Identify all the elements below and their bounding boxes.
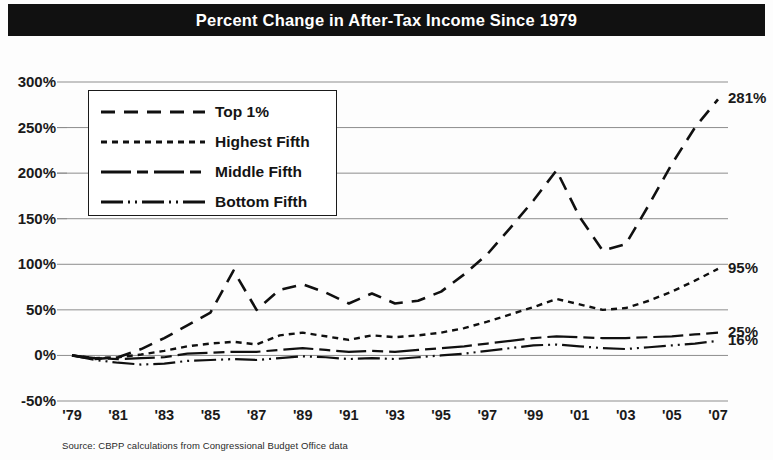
x-axis-tick-label: '79 <box>52 407 92 423</box>
series-end-label: 16% <box>728 331 758 348</box>
plot-area: 300%250%200%150%100%50%0%-50% '79'81'83'… <box>0 36 773 460</box>
legend-item-label: Bottom Fifth <box>215 193 307 211</box>
y-axis-tick-label: 200% <box>0 164 56 181</box>
y-axis-tick-label: 100% <box>0 255 56 272</box>
x-axis-tick-label: '07 <box>698 407 738 423</box>
page-title: Percent Change in After-Tax Income Since… <box>196 11 577 30</box>
y-axis-tick-label: -50% <box>0 392 56 409</box>
x-axis-tick-label: '89 <box>283 407 323 423</box>
chart-legend: Top 1%Highest FifthMiddle FifthBottom Fi… <box>88 90 337 216</box>
x-axis-tick-label: '97 <box>467 407 507 423</box>
x-axis-tick-label: '01 <box>560 407 600 423</box>
series-end-label: 95% <box>728 259 758 276</box>
x-axis-tick-label: '03 <box>606 407 646 423</box>
legend-item[interactable]: Middle Fifth <box>89 156 336 187</box>
x-axis-tick-label: '85 <box>190 407 230 423</box>
x-axis-tick-label: '83 <box>144 407 184 423</box>
legend-line-swatch <box>99 195 207 209</box>
x-axis-tick-label: '93 <box>375 407 415 423</box>
x-axis-tick-label: '99 <box>513 407 553 423</box>
legend-item[interactable]: Bottom Fifth <box>89 186 336 217</box>
legend-item-label: Highest Fifth <box>215 133 310 151</box>
chart-title-bar: Percent Change in After-Tax Income Since… <box>8 4 765 36</box>
legend-line-swatch <box>99 165 207 179</box>
series-end-label: 281% <box>728 89 766 106</box>
x-axis-tick-label: '91 <box>329 407 369 423</box>
y-axis-tick-label: 150% <box>0 210 56 227</box>
y-axis-tick-label: 250% <box>0 119 56 136</box>
axis-tickmarks <box>57 128 67 219</box>
series-line <box>72 269 718 358</box>
x-axis-tick-label: '95 <box>421 407 461 423</box>
y-axis-tick-label: 50% <box>0 301 56 318</box>
x-axis-tick-label: '81 <box>98 407 138 423</box>
legend-line-swatch <box>99 135 207 149</box>
legend-item-label: Top 1% <box>215 103 269 121</box>
legend-line-swatch <box>99 105 207 119</box>
legend-item[interactable]: Top 1% <box>89 96 336 127</box>
source-note: Source: CBPP calculations from Congressi… <box>62 440 348 451</box>
x-axis-tick-label: '87 <box>237 407 277 423</box>
chart-figure: Percent Change in After-Tax Income Since… <box>0 0 773 460</box>
y-axis-tick-label: 0% <box>0 346 56 363</box>
y-axis-tick-label: 300% <box>0 73 56 90</box>
x-axis-tick-label: '05 <box>652 407 692 423</box>
legend-item[interactable]: Highest Fifth <box>89 126 336 157</box>
legend-item-label: Middle Fifth <box>215 163 302 181</box>
